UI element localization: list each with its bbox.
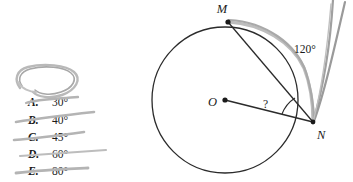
- pencil-loop-scribble: [17, 65, 78, 97]
- angle-120-label: 120°: [294, 43, 316, 55]
- unknown-angle-label: ?: [263, 98, 268, 110]
- choice-row-b[interactable]: B. 40°: [16, 112, 94, 126]
- choice-row-d[interactable]: D. 60°: [20, 148, 106, 160]
- point-n-dot: [311, 120, 316, 125]
- chord-mn: [228, 22, 313, 122]
- choice-row-c[interactable]: C. 45°: [14, 131, 84, 143]
- radius-on: [225, 100, 313, 122]
- tangent-rays-from-n: [313, 0, 345, 122]
- point-label-n: N: [316, 128, 326, 142]
- center-point-dot: [222, 97, 227, 102]
- strikethrough-c: [14, 132, 84, 140]
- point-label-o: O: [208, 95, 217, 109]
- choice-row-a[interactable]: A. 30°: [26, 96, 78, 108]
- geometry-problem-figure: A. 30° B. 40° C. 45° D. 60° E. 80°: [0, 0, 353, 182]
- angle-arc-unknown: [282, 98, 295, 114]
- point-label-m: M: [216, 2, 228, 16]
- choice-row-e[interactable]: E. 80°: [16, 165, 88, 177]
- screenshot-root: A. 30° B. 40° C. 45° D. 60° E. 80°: [0, 0, 353, 182]
- point-m-dot: [225, 19, 230, 24]
- arc-highlight-mn: [228, 20, 314, 122]
